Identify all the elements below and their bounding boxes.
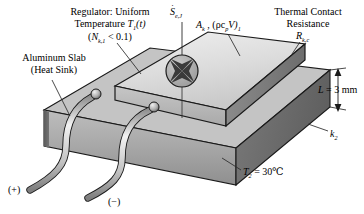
label-energy-source: · Se,J bbox=[170, 6, 182, 19]
label-regulator-line1: Regulator: Uniform bbox=[44, 6, 176, 18]
label-area-capacitance: Ak , (ρcpV)1 bbox=[196, 19, 241, 32]
label-regulator-line3: (Nk,1 < 0.1) bbox=[44, 31, 176, 44]
label-terminal-positive: (+) bbox=[8, 184, 20, 196]
label-rkc-symbol: Rk,c bbox=[296, 30, 309, 43]
figure-canvas: Regulator: Uniform Temperature T1(t) (Nk… bbox=[0, 0, 364, 214]
label-regulator: Regulator: Uniform Temperature T1(t) (Nk… bbox=[44, 6, 176, 44]
label-thermal-contact-resistance: Thermal Contact Resistance bbox=[256, 6, 360, 30]
label-tcr-line1: Thermal Contact bbox=[256, 6, 360, 18]
label-terminal-negative: (−) bbox=[108, 196, 120, 208]
label-aluminum-line2: (Heat Sink) bbox=[2, 64, 106, 76]
label-conductivity: k2 bbox=[330, 128, 338, 141]
label-regulator-line2: Temperature T1(t) bbox=[44, 18, 176, 31]
label-aluminum-line1: Aluminum Slab bbox=[2, 52, 106, 64]
label-thickness: L = 3 mm bbox=[318, 84, 357, 96]
label-tcr-line2: Resistance bbox=[256, 18, 360, 30]
overdot-icon: · bbox=[171, 0, 174, 11]
label-aluminum-slab: Aluminum Slab (Heat Sink) bbox=[2, 52, 106, 76]
leader-k2 bbox=[308, 124, 328, 131]
terminal-ball-positive bbox=[91, 89, 101, 99]
label-base-temperature: T2 = 30℃ bbox=[243, 166, 283, 179]
terminal-ball-negative bbox=[149, 102, 159, 112]
